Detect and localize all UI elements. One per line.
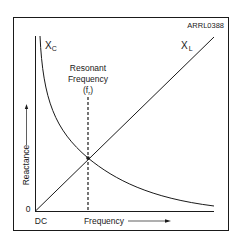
resonance-point	[86, 156, 90, 160]
x-axis-label: Frequency	[84, 216, 125, 226]
y-axis-arrow-icon	[25, 104, 28, 109]
resonant-symbol: (fr)	[83, 85, 93, 96]
x-origin-label: DC	[35, 216, 47, 226]
resonant-label-line1: Resonant	[70, 63, 107, 73]
xl-label: XL	[181, 40, 193, 52]
x-axis-arrow-icon	[165, 219, 171, 222]
figure-id: ARRL0388	[187, 21, 224, 30]
inductive-reactance-line	[36, 37, 215, 211]
y-origin-label: 0	[26, 204, 31, 214]
y-axis-label: Reactance	[21, 144, 31, 185]
xc-label: XC	[45, 40, 57, 52]
reactance-vs-frequency-diagram: ARRL0388 XC XL Resonant Frequency (fr) R…	[0, 0, 242, 242]
resonant-label-line2: Frequency	[68, 74, 109, 84]
